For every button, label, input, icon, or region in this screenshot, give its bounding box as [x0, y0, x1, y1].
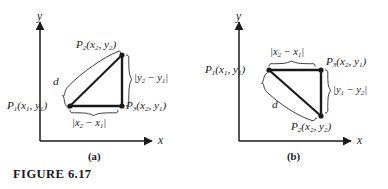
label-point-p1: P1(x1, y1): [7, 100, 47, 111]
panel-a: P2(x2, y2) P1(x1, y1) P3(x2, y1) d |y2 −…: [0, 0, 194, 189]
brace-d: [262, 73, 318, 121]
vertex-p2-dot: [318, 113, 323, 118]
label-distance-d: d: [272, 99, 278, 110]
label-vertical-dimension: |y2 − y1|: [134, 73, 168, 84]
vertex-p1-dot: [266, 67, 271, 72]
label-point-p1: P1(x1, y1): [205, 64, 245, 75]
panel-b: |x2 − x1| P1(x1, y1) P3(x2, y1) |y1 − y2…: [194, 0, 388, 189]
figure-6-17: P2(x2, y2) P1(x1, y1) P3(x2, y1) d |y2 −…: [0, 0, 388, 189]
label-horizontal-dimension: |x2 − x1|: [270, 47, 304, 58]
vertex-p3-dot: [119, 103, 124, 108]
label-point-p2: P2(x2, y2): [76, 39, 116, 50]
brace-vertical-dim: [325, 70, 331, 113]
label-point-p3: P3(x2, y1): [326, 56, 366, 67]
label-point-p3: P3(x2, y1): [126, 100, 166, 111]
triangle-hypotenuse-segment: [70, 55, 122, 106]
brace-horizontal-dim: [269, 61, 315, 67]
label-y-axis: y: [37, 11, 42, 23]
caption-panel-b: (b): [287, 150, 300, 162]
label-vertical-dimension: |y1 − y2|: [333, 85, 367, 96]
label-horizontal-dimension: |x2 − x1|: [72, 118, 106, 129]
label-distance-d: d: [53, 76, 59, 87]
label-x-axis: x: [357, 135, 362, 147]
figure-caption: FIGURE 6.17: [13, 167, 92, 182]
brace-d: [63, 51, 122, 108]
brace-horizontal-dim: [70, 110, 118, 116]
label-point-p2: P2(x2, y2): [291, 121, 331, 132]
label-y-axis: y: [236, 11, 241, 23]
vertex-p3-dot: [318, 67, 323, 72]
caption-panel-a: (a): [88, 150, 101, 162]
label-x-axis: x: [158, 135, 163, 147]
